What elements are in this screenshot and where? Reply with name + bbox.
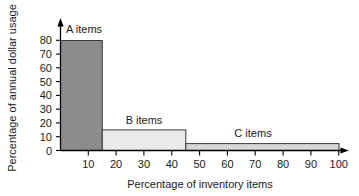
y-tick-label-30: 30 [40,103,52,115]
x-tick-label-80: 80 [277,158,289,170]
x-tick-label-30: 30 [138,158,150,170]
x-tick-label-40: 40 [166,158,178,170]
bar-c-items [186,144,339,151]
y-axis-title: Percentage of annual dollar usage [6,4,18,172]
annotation-c-items: C items [234,127,272,139]
x-tick-label-50: 50 [193,158,205,170]
annotation-b-items: B items [126,114,163,126]
y-tick-label-70: 70 [40,48,52,60]
y-tick-label-80: 80 [40,34,52,46]
bar-b-items [102,130,186,151]
bar-a-items [61,41,103,151]
chart-svg: 80 70 60 50 40 30 20 10 0 [0,0,359,196]
x-tick-label-90: 90 [305,158,317,170]
annotation-a-items: A items [66,23,103,35]
y-tick-label-40: 40 [40,89,52,101]
x-tick-label-10: 10 [82,158,94,170]
y-tick-label-20: 20 [40,117,52,129]
abc-inventory-chart: 80 70 60 50 40 30 20 10 0 [0,0,359,196]
x-axis-title: Percentage of inventory items [127,178,273,190]
x-tick-label-70: 70 [249,158,261,170]
x-tick-label-20: 20 [110,158,122,170]
y-tick-label-50: 50 [40,76,52,88]
y-tick-label-10: 10 [40,131,52,143]
y-tick-label-0: 0 [46,145,52,157]
x-tick-label-100: 100 [330,158,348,170]
y-axis: 80 70 60 50 40 30 20 10 0 [40,18,64,157]
y-tick-label-60: 60 [40,62,52,74]
x-tick-label-60: 60 [221,158,233,170]
